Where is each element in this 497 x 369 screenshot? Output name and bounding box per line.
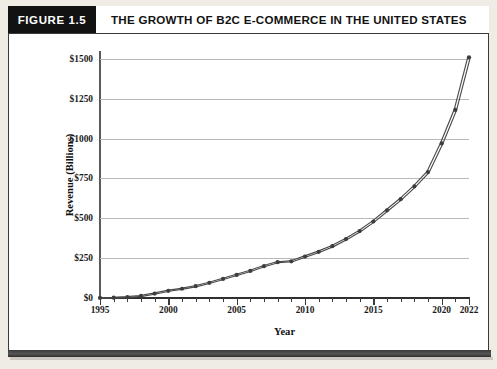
x-axis-major-tick (168, 298, 169, 305)
x-axis-minor-tick (291, 298, 292, 302)
data-point-marker (453, 108, 457, 112)
x-axis-minor-tick (455, 298, 456, 302)
data-point-marker (248, 269, 252, 273)
x-axis-tick-label: 2000 (159, 305, 178, 315)
data-point-marker (125, 295, 129, 299)
data-point-marker (166, 289, 170, 293)
x-axis-major-tick (373, 298, 374, 305)
data-point-marker (344, 237, 348, 241)
data-point-marker (440, 141, 444, 145)
x-axis-tick-label: 2020 (432, 305, 451, 315)
x-axis-tick-label: 2010 (296, 305, 315, 315)
data-point-marker (412, 184, 416, 188)
data-point-marker (221, 277, 225, 281)
figure-title-bar: THE GROWTH OF B2C E-COMMERCE IN THE UNIT… (96, 6, 489, 33)
x-axis-minor-tick (401, 298, 402, 302)
x-axis-minor-tick (346, 298, 347, 302)
data-point-marker (303, 254, 307, 258)
x-axis-minor-tick (155, 298, 156, 302)
data-point-marker (399, 197, 403, 201)
data-point-marker (235, 273, 239, 277)
x-axis-minor-tick (414, 298, 415, 302)
y-axis-tick-label: $750 (74, 173, 93, 183)
data-point-marker (330, 244, 334, 248)
figure-number-badge: FIGURE 1.5 (8, 6, 96, 33)
data-point-marker (139, 294, 143, 298)
x-axis-minor-tick (223, 298, 224, 302)
series-b2c-revenue (100, 51, 469, 298)
figure-header: FIGURE 1.5 THE GROWTH OF B2C E-COMMERCE … (8, 6, 489, 33)
x-axis-tick-label: 1995 (91, 305, 110, 315)
figure-root: FIGURE 1.5 THE GROWTH OF B2C E-COMMERCE … (0, 0, 497, 369)
x-axis-minor-tick (264, 298, 265, 302)
y-axis-tick-label: $1000 (70, 134, 93, 144)
figure-number-label: FIGURE 1.5 (18, 14, 87, 26)
y-axis-tick-label: $1250 (70, 94, 93, 104)
series-line-stroke (101, 58, 470, 299)
data-point-marker (426, 170, 430, 174)
data-point-marker (262, 264, 266, 268)
x-axis-minor-tick (141, 298, 142, 302)
x-axis-minor-tick (360, 298, 361, 302)
data-point-marker (276, 260, 280, 264)
data-point-marker (207, 281, 211, 285)
x-axis-minor-tick (332, 298, 333, 302)
data-point-marker (467, 55, 471, 59)
y-axis-title: Revenue (Billions) (64, 133, 75, 216)
x-axis-major-tick (305, 298, 306, 305)
x-axis-tick-label: 2005 (227, 305, 246, 315)
x-axis-title: Year (100, 326, 469, 337)
data-point-marker (358, 229, 362, 233)
x-axis-minor-tick (196, 298, 197, 302)
x-axis-minor-tick (278, 298, 279, 302)
figure-bottom-bar (8, 350, 491, 357)
y-axis-tick-label: $0 (84, 293, 93, 303)
x-axis-minor-tick (209, 298, 210, 302)
x-axis-major-tick (442, 298, 443, 305)
y-axis-tick-label: $250 (74, 253, 93, 263)
figure-bottom-shadow (10, 357, 493, 360)
x-axis-minor-tick (182, 298, 183, 302)
data-point-marker (385, 208, 389, 212)
data-point-marker (289, 259, 293, 263)
data-point-marker (98, 296, 102, 300)
x-axis-tick-label: 2015 (364, 305, 383, 315)
page-title: THE GROWTH OF B2C E-COMMERCE IN THE UNIT… (111, 13, 467, 26)
x-axis-major-tick (469, 298, 470, 305)
chart-plot-box: Revenue (Billions) Year $0$250$500$750$1… (100, 51, 469, 298)
data-point-marker (317, 250, 321, 254)
data-point-marker (194, 284, 198, 288)
data-point-marker (371, 219, 375, 223)
x-axis-minor-tick (387, 298, 388, 302)
x-axis-major-tick (237, 298, 238, 305)
x-axis-minor-tick (428, 298, 429, 302)
y-axis-tick-label: $500 (74, 213, 93, 223)
x-axis-minor-tick (319, 298, 320, 302)
y-axis-tick-label: $1500 (70, 54, 93, 64)
x-axis-minor-tick (250, 298, 251, 302)
x-axis-tick-label: 2022 (460, 305, 479, 315)
plot-area: Revenue (Billions) Year $0$250$500$750$1… (8, 34, 489, 350)
series-line-stroke (99, 57, 468, 298)
data-point-marker (112, 296, 116, 300)
data-point-marker (180, 287, 184, 291)
data-point-marker (153, 291, 157, 295)
